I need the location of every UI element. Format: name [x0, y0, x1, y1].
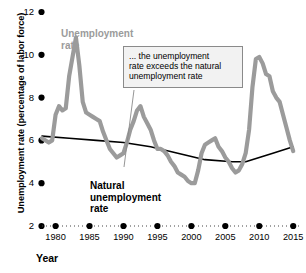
x-tick-label: 2005: [208, 232, 242, 242]
x-tick-dot: [256, 223, 262, 229]
x-tick-label: 2000: [174, 232, 208, 242]
y-tick-label: 8: [18, 92, 34, 103]
gap-callout-annotation: ... the unemployment rate exceeds the na…: [123, 46, 243, 88]
y-tick-label: 6: [18, 134, 34, 145]
x-tick-dot: [222, 223, 228, 229]
x-tick-label: 1990: [106, 232, 140, 242]
x-tick-dot: [188, 223, 194, 229]
y-tick-label: 12: [18, 6, 34, 17]
x-axis-dotted-baseline: [42, 223, 302, 229]
x-tick-label: 1985: [73, 232, 107, 242]
x-tick-label: 2010: [242, 232, 276, 242]
tick-marker-dots: [38, 9, 44, 229]
x-tick-label: 1980: [39, 232, 73, 242]
unemployment-rate-chart: Unemployment rate (percentage of labor f…: [0, 0, 306, 273]
y-tick-dot: [38, 52, 44, 58]
y-tick-dot: [38, 95, 44, 101]
y-tick-dot: [38, 223, 44, 229]
x-tick-label: 2015: [276, 232, 306, 242]
y-tick-dot: [38, 180, 44, 186]
x-tick-dot: [154, 223, 160, 229]
x-tick-dot: [120, 223, 126, 229]
x-tick-dot: [52, 223, 58, 229]
y-tick-label: 4: [18, 177, 34, 188]
y-tick-dot: [38, 9, 44, 15]
x-tick-dot: [86, 223, 92, 229]
x-tick-label: 1995: [140, 232, 174, 242]
y-tick-label: 10: [18, 49, 34, 60]
x-tick-dot: [290, 223, 296, 229]
series-label-natural-rate: Natural unemployment rate: [90, 180, 161, 215]
y-tick-label: 2: [18, 220, 34, 231]
